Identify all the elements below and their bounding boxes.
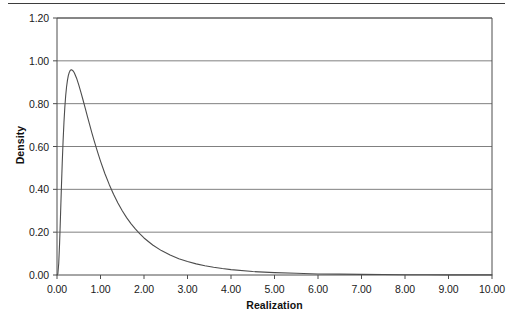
x-tick-label: 6.00: [308, 283, 328, 295]
y-tick-label: 0.80: [29, 98, 49, 110]
x-tick-label: 0.00: [47, 283, 67, 295]
page-root: 0.000.200.400.600.801.001.20 0.001.002.0…: [0, 0, 519, 321]
x-tick-label: 10.00: [479, 283, 505, 295]
x-tick-label: 5.00: [264, 283, 284, 295]
x-tick-label: 2.00: [134, 283, 154, 295]
y-tick-label: 1.20: [29, 12, 49, 24]
axis-ticks: [53, 18, 492, 279]
x-tick-label: 3.00: [177, 283, 197, 295]
gridlines: [57, 18, 492, 232]
y-tick-label: 0.00: [29, 269, 49, 281]
plot-canvas: [0, 0, 519, 321]
y-tick-label: 0.40: [29, 183, 49, 195]
x-tick-label: 7.00: [351, 283, 371, 295]
x-tick-label: 8.00: [395, 283, 415, 295]
series-line: [57, 70, 492, 275]
density-curve: [57, 70, 492, 275]
y-tick-label: 1.00: [29, 55, 49, 67]
x-tick-label: 9.00: [438, 283, 458, 295]
x-tick-label: 1.00: [90, 283, 110, 295]
y-tick-label: 0.60: [29, 141, 49, 153]
x-tick-label: 4.00: [221, 283, 241, 295]
density-chart: 0.000.200.400.600.801.001.20 0.001.002.0…: [0, 0, 519, 321]
y-axis-title: Density: [14, 125, 26, 165]
x-axis-title: Realization: [246, 299, 303, 311]
y-tick-label: 0.20: [29, 226, 49, 238]
